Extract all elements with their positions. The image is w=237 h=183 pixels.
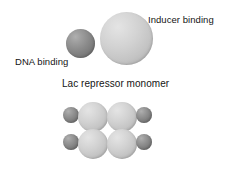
- tetramer-inducer-binding-sphere-top-left: [78, 102, 108, 132]
- tetramer-inducer-binding-sphere-bottom-left: [78, 129, 108, 159]
- tetramer-diagram-group: Lac repressor tetramer: [0, 96, 237, 183]
- tetramer-dna-binding-sphere-top-left: [63, 107, 79, 123]
- dna-binding-domain-sphere: [66, 29, 95, 58]
- tetramer-dna-binding-sphere-bottom-right: [136, 134, 152, 150]
- tetramer-dna-binding-sphere-bottom-left: [63, 134, 79, 150]
- monomer-caption: Lac repressor monomer: [62, 78, 169, 90]
- inducer-binding-label: Inducer binding: [148, 14, 214, 25]
- lac-repressor-diagram: Inducer binding DNA binding Lac represso…: [0, 0, 237, 183]
- tetramer-inducer-binding-sphere-top-right: [107, 102, 137, 132]
- tetramer-inducer-binding-sphere-bottom-right: [107, 129, 137, 159]
- tetramer-dna-binding-sphere-top-right: [136, 107, 152, 123]
- monomer-diagram-group: Inducer binding DNA binding Lac represso…: [0, 0, 237, 95]
- dna-binding-label: DNA binding: [15, 56, 68, 67]
- inducer-binding-domain-sphere: [100, 12, 153, 65]
